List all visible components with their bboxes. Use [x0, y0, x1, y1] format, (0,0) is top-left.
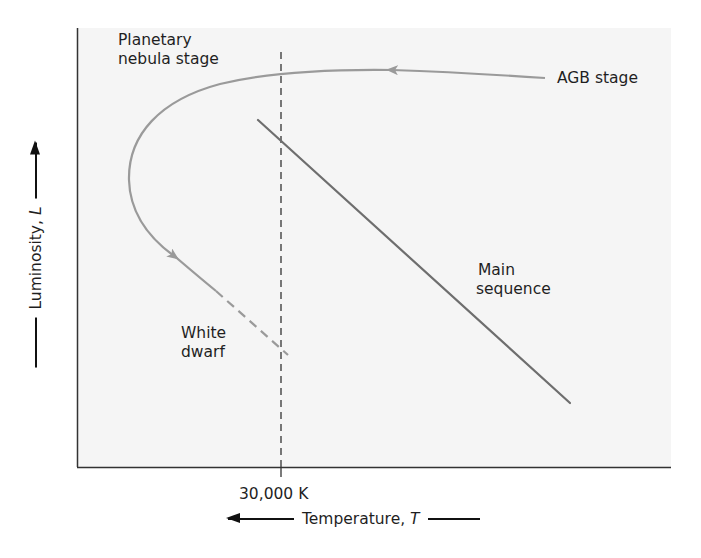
y-axis-title: Luminosity, L — [27, 142, 45, 367]
white-dwarf-label-line1: White — [181, 324, 226, 343]
up-arrow-icon — [35, 142, 37, 198]
y-axis-title-text: Luminosity, L — [27, 206, 45, 309]
planetary-nebula-label-line2: nebula stage — [118, 50, 219, 69]
x-axis-title-text: Temperature, T — [302, 510, 420, 528]
agb-stage-label: AGB stage — [557, 69, 638, 88]
planetary-nebula-label-line1: Planetary — [118, 31, 219, 50]
white-dwarf-label-line2: dwarf — [181, 343, 226, 362]
y-axis-title-label: Luminosity, — [27, 220, 45, 309]
plot-area — [77, 28, 671, 467]
main-sequence-label-line1: Main — [476, 261, 551, 280]
y-axis-variable: L — [27, 206, 45, 215]
x-axis-tick-label: 30,000 K — [239, 485, 308, 503]
white-dwarf-label: White dwarf — [181, 324, 226, 362]
y-axis-line-decoration — [35, 318, 37, 368]
left-arrow-icon — [228, 518, 294, 520]
planetary-nebula-label: Planetary nebula stage — [118, 31, 219, 69]
x-axis-title: Temperature, T — [228, 510, 480, 528]
main-sequence-label-line2: sequence — [476, 280, 551, 299]
main-sequence-label: Main sequence — [476, 261, 551, 299]
x-axis-line-decoration — [428, 518, 480, 520]
x-axis-variable: T — [410, 510, 419, 528]
x-axis-title-label: Temperature, — [302, 510, 405, 528]
